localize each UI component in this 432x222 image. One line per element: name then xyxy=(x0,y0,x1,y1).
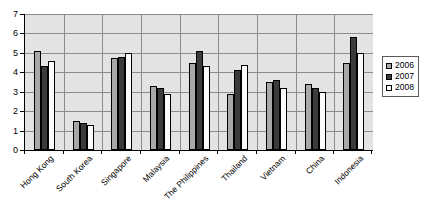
bar-2008 xyxy=(87,125,94,150)
x-axis-label: Indonesia xyxy=(333,154,366,187)
bar-group xyxy=(64,14,103,150)
legend-swatch-2007-icon xyxy=(386,74,392,80)
y-axis-tick-label: 1 xyxy=(13,126,18,135)
bar-2008 xyxy=(164,94,171,150)
legend-swatch-2006-icon xyxy=(386,63,392,69)
legend-item: 2008 xyxy=(386,82,414,93)
bar-2007 xyxy=(350,37,357,150)
category-separator xyxy=(334,14,335,150)
bar-group xyxy=(334,14,373,150)
bar-2008 xyxy=(280,88,287,150)
x-axis-label: South Korea xyxy=(55,154,95,194)
bar-2007 xyxy=(196,51,203,150)
bar-group xyxy=(141,14,180,150)
bar-group xyxy=(102,14,141,150)
bar-2007 xyxy=(80,123,87,150)
category-separator xyxy=(141,14,142,150)
y-axis-tick-label: 5 xyxy=(13,48,18,57)
x-axis-label: Hong Kong xyxy=(19,154,56,191)
legend: 200620072008 xyxy=(382,56,419,97)
bar-2007 xyxy=(41,66,48,150)
bars-layer xyxy=(25,14,373,150)
bar-group xyxy=(180,14,219,150)
bar-group xyxy=(257,14,296,150)
bar-2006 xyxy=(150,86,157,150)
category-separator xyxy=(180,14,181,150)
y-axis-tick-label: 2 xyxy=(13,107,18,116)
bar-2006 xyxy=(305,84,312,150)
legend-label: 2007 xyxy=(395,72,414,81)
bar-group xyxy=(296,14,335,150)
bar-2006 xyxy=(189,63,196,150)
bar-2006 xyxy=(34,51,41,150)
bar-2008 xyxy=(319,92,326,150)
legend-item: 2007 xyxy=(386,71,414,82)
y-axis: 01234567 xyxy=(0,0,24,160)
x-axis-label: Vietnam xyxy=(259,154,288,183)
bar-2006 xyxy=(227,94,234,150)
bar-2008 xyxy=(125,53,132,150)
y-axis-tick-label: 7 xyxy=(13,10,18,19)
bar-group xyxy=(218,14,257,150)
y-axis-tick-label: 6 xyxy=(13,29,18,38)
bar-2008 xyxy=(357,53,364,150)
y-axis-tick-label: 4 xyxy=(13,68,18,77)
category-separator xyxy=(102,14,103,150)
bar-2007 xyxy=(157,88,164,150)
category-separator xyxy=(296,14,297,150)
y-axis-tick-label: 3 xyxy=(13,87,18,96)
legend-swatch-2008-icon xyxy=(386,85,392,91)
bar-2007 xyxy=(273,80,280,150)
legend-item: 2006 xyxy=(386,60,414,71)
category-separator xyxy=(218,14,219,150)
x-axis-label: Malaysia xyxy=(142,154,172,184)
x-axis-label: Singapore xyxy=(99,154,133,188)
bar-2008 xyxy=(48,61,55,150)
bar-group xyxy=(25,14,64,150)
x-axis-labels: Hong KongSouth KoreaSingaporeMalaysiaThe… xyxy=(24,154,384,222)
y-axis-tick-label: 0 xyxy=(13,146,18,155)
bar-2007 xyxy=(312,88,319,150)
plot-area xyxy=(24,14,373,151)
bar-2008 xyxy=(241,65,248,150)
x-axis-label: China xyxy=(304,154,326,176)
bar-2007 xyxy=(234,70,241,150)
bar-2006 xyxy=(343,63,350,150)
bar-2007 xyxy=(118,57,125,150)
legend-label: 2008 xyxy=(395,83,414,92)
x-axis-label: Thailand xyxy=(220,154,250,184)
bar-2006 xyxy=(266,82,273,150)
category-separator xyxy=(64,14,65,150)
legend-label: 2006 xyxy=(395,61,414,70)
bar-chart: 01234567 Hong KongSouth KoreaSingaporeMa… xyxy=(0,0,432,222)
bar-2006 xyxy=(111,58,118,150)
category-separator xyxy=(257,14,258,150)
bar-2006 xyxy=(73,121,80,150)
bar-2008 xyxy=(203,66,210,150)
